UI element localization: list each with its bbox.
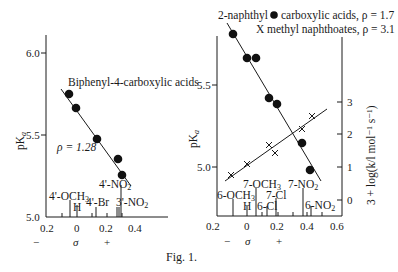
x-tick: 0.6 [330, 220, 344, 232]
x-tick: 0.2 [270, 220, 284, 232]
legend-prefix: 2-naphthyl [218, 9, 268, 22]
y2-tick: 3 [347, 96, 353, 108]
x-tick: 0 [74, 222, 80, 234]
legend-circle-marker [270, 11, 278, 19]
sub-label-h: H [243, 200, 251, 212]
y-tick: 5.0 [197, 161, 211, 173]
y-tick: 5.0 [26, 211, 40, 223]
data-point [273, 100, 282, 109]
sub-label-4-no2: 4'-NO2 [99, 178, 131, 192]
x-axis-label: σ [73, 236, 79, 248]
sub-label-6-cl: 6-Cl [257, 200, 277, 212]
cross-marker [309, 113, 315, 119]
data-point [265, 94, 274, 103]
left-y-label: pKa [14, 132, 28, 150]
right-y2-label: 3 + log(k/l mol⁻¹ s⁻¹) [365, 105, 378, 205]
data-point [306, 166, 315, 175]
y-tick: 6.0 [26, 47, 40, 59]
x-sign-minus: − [33, 236, 39, 248]
figure: 6.0 5.5 5.0 0.2 0 0.2 0.4 − σ + pKa Biph… [0, 0, 398, 272]
y-tick: 5.5 [26, 129, 40, 141]
data-point [114, 155, 123, 164]
acid-points [229, 30, 315, 175]
sub-label-3-no2: 3'-NO2 [116, 196, 148, 210]
legend-acids: carboxylic acids, ρ = 1.7 [281, 9, 394, 22]
x-axis-label: σ [245, 235, 251, 247]
legend-cross-marker: X [256, 23, 265, 35]
x-sign-plus: + [104, 236, 110, 248]
svg-text:pKa: pKa [187, 130, 201, 148]
cross-marker [272, 150, 278, 156]
rho-annotation: ρ = 1.28 [56, 141, 96, 154]
y-tick: 5.5 [197, 79, 211, 91]
right-y-label: pKa [187, 130, 201, 148]
x-tick: 0.2 [99, 222, 113, 234]
x-tick: 0.4 [300, 220, 314, 232]
sub-label-7-cl: 7-Cl [266, 189, 286, 201]
sub-label-6-no2: 6-NO2 [305, 199, 335, 213]
y2-tick: 1 [347, 161, 353, 173]
data-point [252, 54, 261, 63]
y2-tick: 2 [347, 128, 353, 140]
left-chart-title: Biphenyl-4-carboxylic acids [68, 76, 199, 89]
x-tick: 0.4 [128, 222, 142, 234]
x-tick: 0 [244, 220, 250, 232]
data-point [243, 54, 252, 63]
sub-label-4-ome: 4'-OCH3 [49, 190, 89, 204]
sub-label-7-no2: 7-NO2 [288, 178, 318, 192]
svg-text:3 + log(k/l mol⁻¹ s⁻¹): 3 + log(k/l mol⁻¹ s⁻¹) [365, 105, 378, 205]
svg-text:pKa: pKa [14, 132, 28, 150]
sub-label-h: H [73, 201, 81, 213]
cross-marker [266, 142, 272, 148]
x-tick: 0.2 [40, 222, 54, 234]
sub-label-4-br: 4'-Br [86, 196, 109, 208]
y2-tick: 0 [347, 194, 353, 206]
figure-caption: Fig. 1. [166, 250, 197, 265]
legend-esters: methyl naphthoates, ρ = 3.1 [267, 23, 395, 36]
data-point [298, 139, 307, 148]
x-tick: 0.2 [206, 220, 220, 232]
x-sign-minus: − [224, 235, 230, 247]
x-sign-plus: + [276, 235, 282, 247]
data-point [72, 104, 81, 113]
data-point [229, 30, 238, 39]
data-point [65, 90, 74, 99]
